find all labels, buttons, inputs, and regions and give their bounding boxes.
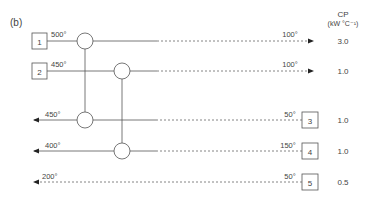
svg-text:5: 5 <box>308 179 313 188</box>
cp-header-units: (kW °C⁻¹) <box>328 20 359 28</box>
exchanger-match-1-3 <box>77 33 93 128</box>
target-temp: 200° <box>42 172 58 181</box>
heat-exchanger-network-diagram: (b) CP (kW °C⁻¹) 1 500° 100° 3.0 2 450° … <box>0 0 366 199</box>
svg-text:1: 1 <box>37 38 42 47</box>
supply-temp: 50° <box>284 110 295 119</box>
supply-temp: 150° <box>280 141 296 150</box>
cp-value: 1.0 <box>337 116 349 125</box>
cold-stream-4: 4 400° 150° 1.0 <box>34 141 349 159</box>
supply-temp: 500° <box>51 30 67 39</box>
target-temp: 100° <box>282 60 298 69</box>
target-temp: 100° <box>282 30 298 39</box>
cold-stream-5: 5 200° 50° 0.5 <box>34 172 349 190</box>
figure-label: (b) <box>10 17 22 28</box>
supply-temp: 50° <box>284 172 295 181</box>
cp-value: 1.0 <box>337 147 349 156</box>
cp-value: 1.0 <box>337 67 349 76</box>
supply-temp: 450° <box>51 60 67 69</box>
cp-header-label: CP <box>337 10 348 19</box>
svg-text:3: 3 <box>308 117 313 126</box>
hot-stream-2: 2 450° 100° 1.0 <box>32 60 349 79</box>
exchanger-match-2-4 <box>114 63 130 159</box>
target-temp: 400° <box>45 141 61 150</box>
cp-value: 3.0 <box>337 37 349 46</box>
svg-text:2: 2 <box>37 68 42 77</box>
target-temp: 450° <box>45 110 61 119</box>
cp-value: 0.5 <box>337 178 349 187</box>
svg-text:4: 4 <box>308 148 313 157</box>
